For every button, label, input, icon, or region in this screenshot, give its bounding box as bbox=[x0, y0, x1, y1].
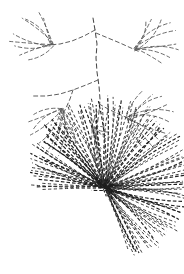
leaf-stroke bbox=[44, 18, 52, 44]
leaf-stroke bbox=[129, 119, 152, 146]
cluster-upper-left bbox=[10, 13, 54, 60]
leaf-stroke bbox=[136, 20, 146, 49]
burst-ray bbox=[106, 192, 149, 249]
burst-ray bbox=[110, 193, 159, 244]
burst-ray bbox=[37, 186, 102, 187]
burst-ray bbox=[41, 188, 101, 190]
radial-burst-layer bbox=[30, 96, 184, 256]
leaf-stroke bbox=[130, 94, 153, 116]
twig-mid-left bbox=[33, 80, 98, 96]
leaf-stroke bbox=[136, 48, 163, 63]
twig-upper-left bbox=[49, 30, 95, 45]
leaf-stroke bbox=[26, 19, 50, 42]
twig-upper-right bbox=[96, 33, 140, 52]
radial-seed-head bbox=[30, 96, 184, 256]
leaf-stroke bbox=[136, 49, 170, 57]
artboard bbox=[0, 0, 184, 274]
cluster-upper-right bbox=[134, 19, 178, 63]
leaf-stroke bbox=[34, 108, 62, 114]
botanical-sketch-canvas bbox=[0, 0, 184, 274]
burst-ray bbox=[107, 189, 177, 231]
leaf-stroke bbox=[134, 23, 170, 49]
